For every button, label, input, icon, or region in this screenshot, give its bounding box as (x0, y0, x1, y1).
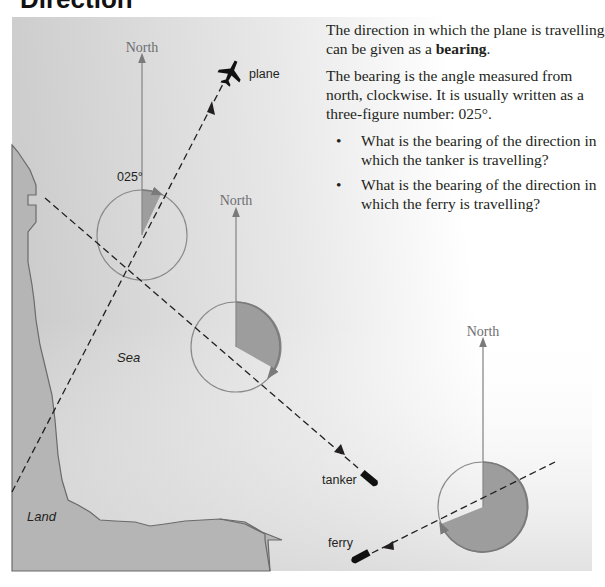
sea-label: Sea (117, 350, 140, 365)
plane-bearing-label: 025° (117, 170, 143, 184)
north-label: North (467, 324, 500, 339)
bullet-icon: • (336, 175, 341, 194)
question-item: •What is the bearing of the direction in… (326, 175, 605, 213)
explanation-text: The direction in which the plane is trav… (326, 20, 605, 219)
plane-label: plane (249, 67, 280, 81)
north-label: North (126, 40, 159, 55)
bearing-explanation: The bearing is the angle measured from n… (326, 66, 605, 123)
north-label: North (220, 193, 253, 208)
ferry-label: ferry (328, 536, 354, 550)
tanker-label: tanker (322, 473, 357, 487)
bearing-definition: The direction in which the plane is trav… (326, 20, 605, 58)
bullet-icon: • (336, 131, 341, 150)
question-item: •What is the bearing of the direction in… (326, 131, 605, 169)
land-label: Land (27, 509, 57, 524)
question-list: •What is the bearing of the direction in… (326, 131, 605, 213)
bearing-term: bearing (436, 40, 487, 57)
